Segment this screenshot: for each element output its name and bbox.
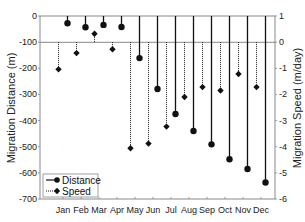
speed-point — [109, 46, 115, 52]
speed-point — [199, 84, 205, 90]
y-tick-label-right: -4 — [279, 142, 287, 152]
speed-point — [91, 31, 97, 37]
y-tick-label-left: -600 — [19, 168, 37, 178]
y-tick-label-right: 1 — [279, 11, 284, 21]
distance-point — [208, 141, 214, 147]
distance-point — [226, 156, 232, 162]
y-tick-label-left: -400 — [19, 116, 37, 126]
y-tick-label-right: -3 — [279, 116, 287, 126]
y-tick-label-right: -5 — [279, 168, 287, 178]
x-tick-label: May — [126, 205, 144, 215]
distance-point — [64, 20, 70, 26]
y-axis-title-right: Migration Speed (m/day) — [291, 48, 303, 168]
speed-point — [163, 123, 169, 129]
speed-point — [145, 140, 151, 146]
x-tick-label: Mar — [91, 205, 107, 215]
speed-point — [217, 87, 223, 93]
x-tick-label: Jan — [56, 205, 71, 215]
distance-point — [172, 111, 178, 117]
y-tick-label-right: -6 — [279, 194, 287, 204]
y-tick-label-left: -200 — [19, 63, 37, 73]
legend-distance-label: Distance — [62, 175, 101, 186]
distance-point — [190, 128, 196, 134]
legend: Distance Speed — [43, 174, 101, 197]
distance-point — [118, 24, 124, 30]
distance-point — [244, 166, 250, 172]
x-tick-label: Oct — [218, 205, 233, 215]
x-tick-label: Apr — [110, 205, 124, 215]
y-tick-label-left: -700 — [19, 194, 37, 204]
x-tick-label: Jul — [165, 205, 177, 215]
y-axis-title-left: Migration Distance (m) — [5, 53, 17, 164]
y-tick-label-right: 0 — [279, 37, 284, 47]
y-tick-label-left: 0 — [32, 11, 37, 21]
distance-point — [100, 22, 106, 28]
speed-point — [181, 94, 187, 100]
distance-point — [154, 86, 160, 92]
y-tick-label-left: -300 — [19, 89, 37, 99]
distance-point — [136, 55, 142, 61]
y-tick-label-left: -100 — [19, 37, 37, 47]
y-tick-label-left: -500 — [19, 142, 37, 152]
legend-speed-label: Speed — [62, 186, 91, 197]
distance-point — [82, 24, 88, 30]
speed-point — [235, 71, 241, 77]
legend-distance-marker — [54, 177, 60, 183]
speed-point — [253, 84, 259, 90]
x-tick-label: Jun — [146, 205, 161, 215]
x-tick-label: Aug — [181, 205, 197, 215]
x-tick-label: Dec — [253, 205, 270, 215]
migration-chart: 0-100-200-300-400-500-600-700 10-1-2-3-4… — [0, 0, 305, 222]
speed-point — [127, 145, 133, 151]
y-tick-label-right: -2 — [279, 89, 287, 99]
distance-point — [262, 179, 268, 185]
y-tick-label-right: -1 — [279, 63, 287, 73]
x-tick-label: Nov — [235, 205, 252, 215]
x-tick-label: Sep — [199, 205, 215, 215]
speed-point — [55, 66, 61, 72]
x-tick-label: Feb — [73, 205, 89, 215]
speed-point — [73, 50, 79, 56]
